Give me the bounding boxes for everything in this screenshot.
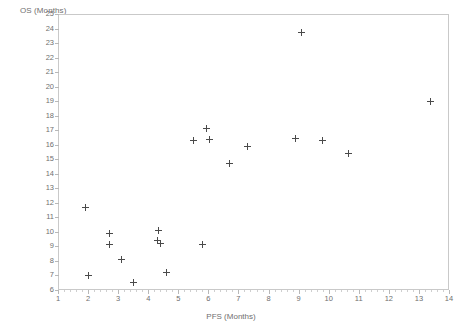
data-point <box>85 272 92 279</box>
x-minor-tick-mark <box>323 290 324 292</box>
x-minor-tick-mark <box>232 290 233 292</box>
y-tick-mark <box>55 116 59 117</box>
x-tick-mark <box>148 290 149 294</box>
y-tick-mark <box>55 188 59 189</box>
x-tick-label: 6 <box>196 295 220 303</box>
x-minor-tick-mark <box>220 290 221 292</box>
data-point <box>427 98 434 105</box>
data-point <box>155 227 162 234</box>
data-point <box>203 125 210 132</box>
x-minor-tick-mark <box>413 290 414 292</box>
y-tick-label: 21 <box>34 68 54 76</box>
plot-area <box>58 14 449 290</box>
x-tick-mark <box>299 290 300 294</box>
y-tick-mark <box>55 203 59 204</box>
x-minor-tick-mark <box>425 290 426 292</box>
x-minor-tick-mark <box>335 290 336 292</box>
y-tick-label: 17 <box>34 126 54 134</box>
x-tick-label: 13 <box>407 295 431 303</box>
x-minor-tick-mark <box>377 290 378 292</box>
y-tick-label: 23 <box>34 39 54 47</box>
y-tick-label: 14 <box>34 170 54 178</box>
x-minor-tick-mark <box>443 290 444 292</box>
x-minor-tick-mark <box>317 290 318 292</box>
y-tick-mark <box>55 275 59 276</box>
x-minor-tick-mark <box>347 290 348 292</box>
data-point <box>319 137 326 144</box>
y-tick-mark <box>55 290 59 291</box>
x-tick-label: 9 <box>287 295 311 303</box>
x-minor-tick-mark <box>130 290 131 292</box>
x-minor-tick-mark <box>142 290 143 292</box>
x-tick-label: 12 <box>377 295 401 303</box>
data-point <box>206 136 213 143</box>
x-tick-label: 1 <box>46 295 70 303</box>
x-minor-tick-mark <box>263 290 264 292</box>
x-minor-tick-mark <box>250 290 251 292</box>
x-minor-tick-mark <box>275 290 276 292</box>
y-tick-label: 10 <box>34 228 54 236</box>
x-tick-mark <box>329 290 330 294</box>
x-minor-tick-mark <box>166 290 167 292</box>
y-tick-label: 11 <box>34 213 54 221</box>
x-minor-tick-mark <box>172 290 173 292</box>
x-minor-tick-mark <box>196 290 197 292</box>
data-point <box>199 241 206 248</box>
x-tick-label: 7 <box>226 295 250 303</box>
y-tick-mark <box>55 217 59 218</box>
x-tick-mark <box>269 290 270 294</box>
x-tick-mark <box>389 290 390 294</box>
y-tick-mark <box>55 72 59 73</box>
x-tick-mark <box>419 290 420 294</box>
data-point <box>106 241 113 248</box>
x-tick-label: 4 <box>136 295 160 303</box>
x-minor-tick-mark <box>64 290 65 292</box>
x-minor-tick-mark <box>106 290 107 292</box>
x-minor-tick-mark <box>305 290 306 292</box>
x-minor-tick-mark <box>184 290 185 292</box>
y-tick-mark <box>55 174 59 175</box>
data-point <box>292 135 299 142</box>
y-tick-label: 25 <box>34 10 54 18</box>
x-minor-tick-mark <box>311 290 312 292</box>
x-minor-tick-mark <box>226 290 227 292</box>
x-tick-label: 10 <box>317 295 341 303</box>
y-tick-label: 24 <box>34 25 54 33</box>
data-point <box>226 160 233 167</box>
y-tick-label: 12 <box>34 199 54 207</box>
y-tick-mark <box>55 159 59 160</box>
x-tick-label: 5 <box>166 295 190 303</box>
y-tick-label: 6 <box>34 286 54 294</box>
x-tick-mark <box>178 290 179 294</box>
data-point <box>163 269 170 276</box>
y-tick-label: 7 <box>34 271 54 279</box>
y-tick-label: 15 <box>34 155 54 163</box>
x-minor-tick-mark <box>395 290 396 292</box>
data-point <box>157 240 164 247</box>
x-minor-tick-mark <box>383 290 384 292</box>
y-tick-label: 18 <box>34 112 54 120</box>
x-minor-tick-mark <box>287 290 288 292</box>
x-minor-tick-mark <box>70 290 71 292</box>
data-point <box>244 143 251 150</box>
x-minor-tick-mark <box>136 290 137 292</box>
x-tick-mark <box>449 290 450 294</box>
x-tick-mark <box>208 290 209 294</box>
x-minor-tick-mark <box>365 290 366 292</box>
x-minor-tick-mark <box>371 290 372 292</box>
x-minor-tick-mark <box>154 290 155 292</box>
x-minor-tick-mark <box>244 290 245 292</box>
y-tick-label: 20 <box>34 83 54 91</box>
y-axis-ticks: 678910111213141516171819202122232425 <box>0 0 54 333</box>
x-minor-tick-mark <box>160 290 161 292</box>
data-point <box>345 150 352 157</box>
x-tick-label: 14 <box>437 295 461 303</box>
y-tick-label: 9 <box>34 242 54 250</box>
y-tick-label: 13 <box>34 184 54 192</box>
x-tick-label: 11 <box>347 295 371 303</box>
y-tick-mark <box>55 58 59 59</box>
data-point <box>118 256 125 263</box>
y-tick-label: 22 <box>34 54 54 62</box>
x-minor-tick-mark <box>76 290 77 292</box>
x-minor-tick-mark <box>190 290 191 292</box>
